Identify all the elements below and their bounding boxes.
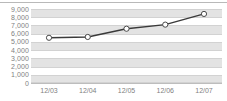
x-axis-line: [31, 83, 222, 84]
y-axis-tick-label: 3,000: [0, 55, 29, 62]
y-axis-tick-labels: 9,0008,0007,0006,0005,0004,0003,0002,000…: [0, 0, 29, 101]
y-axis-tick-label: 2,000: [0, 63, 29, 70]
y-axis-tick-label: 4,000: [0, 47, 29, 54]
y-axis-tick-label: 9,000: [0, 6, 29, 13]
x-axis-tick-label: 12/06: [145, 87, 185, 95]
data-point-marker: [46, 35, 51, 40]
x-axis-tick-label: 12/03: [29, 87, 69, 95]
x-axis-tick-label: 12/05: [107, 87, 147, 95]
x-axis-tick-label: 12/04: [68, 87, 108, 95]
y-axis-tick-label: 6,000: [0, 30, 29, 37]
series-markers: [46, 11, 206, 40]
x-axis-tick-label: 12/07: [184, 87, 224, 95]
y-axis-tick-label: 7,000: [0, 22, 29, 29]
y-axis-tick-label: 0: [0, 80, 29, 87]
top-divider: [0, 2, 227, 3]
plot-area: [31, 9, 222, 83]
series-line-group: [31, 9, 222, 83]
y-axis-tick-label: 1,000: [0, 71, 29, 78]
data-point-marker: [201, 11, 206, 16]
y-axis-tick-label: 8,000: [0, 14, 29, 21]
data-point-marker: [163, 22, 168, 27]
data-point-marker: [85, 34, 90, 39]
y-axis-tick-label: 5,000: [0, 38, 29, 45]
data-point-marker: [124, 26, 129, 31]
line-chart: 9,0008,0007,0006,0005,0004,0003,0002,000…: [0, 0, 227, 101]
x-axis-tick-labels: 12/0312/0412/0512/0612/07: [31, 87, 222, 99]
